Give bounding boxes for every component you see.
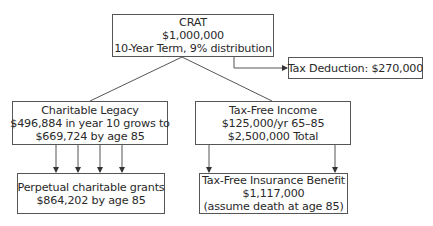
charitable-legacy-box: Charitable Legacy $496,884 in year 10 gr… xyxy=(12,101,168,145)
insurance-benefit-note: (assume death at age 85) xyxy=(203,200,343,213)
edge-crat-income xyxy=(182,57,272,101)
crat-title: CRAT xyxy=(179,16,207,29)
edge-crat-tax-deduction xyxy=(234,57,287,68)
crat-amount: $1,000,000 xyxy=(162,29,224,42)
perpetual-grants-title: Perpetual charitable grants xyxy=(18,181,165,194)
tax-free-income-title: Tax-Free Income xyxy=(229,104,317,117)
insurance-benefit-title: Tax-Free Insurance Benefit xyxy=(202,174,345,187)
insurance-benefit-box: Tax-Free Insurance Benefit $1,117,000 (a… xyxy=(199,173,348,214)
charitable-legacy-line3: $669,724 by age 85 xyxy=(35,130,144,143)
crat-box: CRAT $1,000,000 10-Year Term, 9% distrib… xyxy=(112,14,274,57)
tax-free-income-box: Tax-Free Income $125,000/yr 65–85 $2,500… xyxy=(195,101,351,145)
crat-terms: 10-Year Term, 9% distribution xyxy=(114,42,272,55)
tax-free-income-line3: $2,500,000 Total xyxy=(228,130,319,143)
tax-deduction-text: Tax Deduction: $270,000 xyxy=(288,62,423,75)
charitable-legacy-title: Charitable Legacy xyxy=(41,104,139,117)
tax-free-income-line2: $125,000/yr 65–85 xyxy=(222,117,325,130)
tax-deduction-box: Tax Deduction: $270,000 xyxy=(288,57,423,79)
charitable-legacy-line2: $496,884 in year 10 grows to xyxy=(10,117,169,130)
insurance-benefit-amount: $1,117,000 xyxy=(242,187,304,200)
perpetual-grants-box: Perpetual charitable grants $864,202 by … xyxy=(17,173,165,214)
edge-crat-charitable xyxy=(90,57,182,101)
perpetual-grants-amount: $864,202 by age 85 xyxy=(36,194,145,207)
